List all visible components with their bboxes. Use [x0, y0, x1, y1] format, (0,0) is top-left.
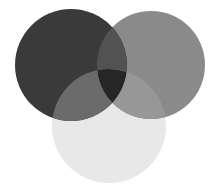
venn-diagram: [0, 0, 209, 191]
venn-svg: [0, 0, 209, 191]
